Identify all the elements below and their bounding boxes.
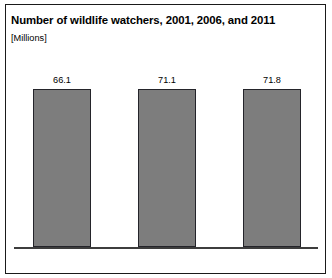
- chart-title: Number of wildlife watchers, 2001, 2006,…: [11, 14, 275, 26]
- x-axis-line: [14, 247, 318, 249]
- bar-value-label: 71.1: [138, 75, 196, 85]
- bar-2006[interactable]: [138, 89, 196, 247]
- bar-value-label: 66.1: [33, 75, 91, 85]
- figure: Number of wildlife watchers, 2001, 2006,…: [0, 0, 332, 278]
- plot-area: 66.1 71.1 71.8 2001 2006 2011: [8, 56, 323, 249]
- bar-2011[interactable]: [243, 89, 301, 247]
- bar-value-label: 71.8: [243, 75, 301, 85]
- bar-2001[interactable]: [33, 89, 91, 247]
- chart-units-label: [Millions]: [11, 33, 47, 43]
